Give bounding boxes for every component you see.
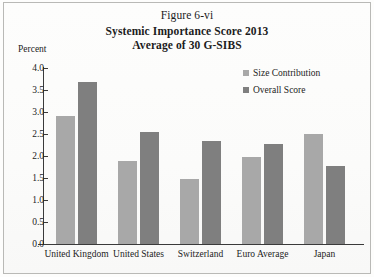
chart-title: Systemic Importance Score 2013 Average o…	[0, 24, 374, 52]
y-axis-tick-label: 0.5	[0, 217, 44, 228]
bar-group	[118, 68, 159, 244]
bar-overall-score	[264, 144, 283, 244]
bar-group	[180, 68, 221, 244]
y-axis-tick-label: 4.0	[0, 63, 44, 74]
legend-swatch-overall-score	[243, 87, 249, 93]
bar-size-contribution	[118, 161, 137, 244]
bar-size-contribution	[180, 179, 199, 244]
y-axis-tick-mark	[44, 244, 48, 245]
y-axis-tick-label: 2.5	[0, 129, 44, 140]
y-axis-tick-label: 2.0	[0, 151, 44, 162]
legend-label-overall-score: Overall Score	[253, 85, 306, 96]
x-axis-category-label: Euro Average	[228, 248, 297, 260]
bar-size-contribution	[242, 157, 261, 244]
chart-page: Figure 6-vi Systemic Importance Score 20…	[0, 0, 374, 277]
bar-size-contribution	[56, 116, 75, 244]
chart-title-line-2: Average of 30 G-SIBS	[0, 38, 374, 52]
y-axis-tick-label: 1.5	[0, 173, 44, 184]
bar-overall-score	[140, 132, 159, 244]
bar-overall-score	[202, 141, 221, 244]
legend-label-size-contribution: Size Contribution	[253, 68, 320, 79]
legend-item-size-contribution: Size Contribution	[243, 66, 320, 80]
bar-overall-score	[326, 166, 345, 244]
y-axis-unit-label: Percent	[18, 44, 47, 55]
bar-size-contribution	[304, 134, 323, 244]
chart-title-line-1: Systemic Importance Score 2013	[0, 24, 374, 38]
x-axis-category-label: Japan	[290, 248, 359, 260]
legend-swatch-size-contribution	[243, 70, 249, 76]
x-axis-line	[38, 244, 364, 245]
legend-item-overall-score: Overall Score	[243, 83, 320, 97]
y-axis-tick-label: 1.0	[0, 195, 44, 206]
y-axis-tick-label: 3.0	[0, 107, 44, 118]
y-axis-tick-label: 3.5	[0, 85, 44, 96]
x-axis-category-label: United Kingdom	[42, 248, 111, 260]
chart-legend: Size Contribution Overall Score	[243, 66, 320, 100]
y-axis-tick-label: 0.0	[0, 239, 44, 250]
figure-label: Figure 6-vi	[0, 8, 374, 22]
bar-overall-score	[78, 82, 97, 244]
x-axis-category-label: Switzerland	[166, 248, 235, 260]
x-axis-category-label: United States	[104, 248, 173, 260]
bar-group	[56, 68, 97, 244]
